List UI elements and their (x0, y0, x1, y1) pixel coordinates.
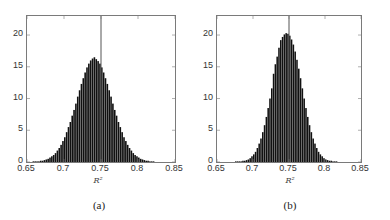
y-tick-label: 20 (199, 28, 213, 38)
x-tick-label: 0.85 (348, 163, 372, 173)
x-tick-label: 0.65 (14, 163, 38, 173)
x-tick-label: 0.75 (88, 163, 112, 173)
x-tick-label: 0.7 (240, 163, 264, 173)
caption-b: (b) (275, 199, 305, 211)
x-axis-label-a: R² (88, 176, 108, 185)
y-tick-label: 15 (199, 60, 213, 70)
histogram-bars (27, 16, 175, 162)
panel-b: R² (b) 051015200.650.70.750.80.85 (195, 0, 390, 220)
x-tick-label: 0.75 (276, 163, 300, 173)
histogram-bars (217, 16, 361, 162)
panel-a: R² (a) 051015200.650.70.750.80.85 (0, 0, 195, 220)
histogram-plot-a (26, 15, 176, 163)
x-tick-label: 0.7 (51, 163, 75, 173)
y-tick-label: 10 (9, 92, 23, 102)
x-tick-label: 0.8 (312, 163, 336, 173)
y-tick-label: 5 (9, 123, 23, 133)
y-tick-label: 10 (199, 92, 213, 102)
y-tick-label: 20 (9, 28, 23, 38)
x-tick-label: 0.8 (125, 163, 149, 173)
y-tick-label: 15 (9, 60, 23, 70)
histogram-plot-b (216, 15, 362, 163)
caption-a: (a) (84, 199, 114, 211)
y-tick-label: 5 (199, 123, 213, 133)
x-axis-label-b: R² (280, 176, 300, 185)
x-tick-label: 0.85 (162, 163, 186, 173)
x-tick-label: 0.65 (204, 163, 228, 173)
